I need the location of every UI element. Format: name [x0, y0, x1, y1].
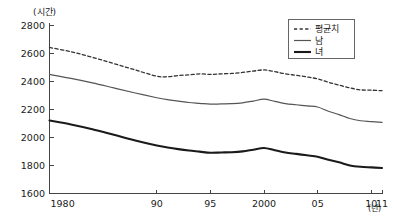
y-axis-unit-label: (시간)	[33, 7, 56, 17]
x-tick-mark-group	[157, 190, 382, 194]
y-tick-label: 2600	[21, 48, 45, 59]
legend-label: 녀	[315, 47, 323, 57]
y-tick-label: 2400	[21, 76, 45, 87]
y-tick-label: 1600	[21, 188, 45, 199]
series-group	[50, 47, 383, 167]
x-axis-unit-label: (년)	[368, 203, 381, 213]
x-tick-label: 95	[204, 198, 216, 209]
line-chart: (시간) 1600180020002200240026002800 198090…	[0, 0, 397, 223]
y-tick-label: 2800	[21, 20, 45, 31]
x-tick-label: 2000	[252, 198, 276, 209]
x-tick-label-group: 198090952000051011	[51, 198, 389, 209]
y-tick-label: 2000	[21, 132, 45, 143]
legend-label: 남	[315, 36, 323, 46]
x-tick-label: 05	[312, 198, 324, 209]
x-tick-label: 90	[151, 198, 163, 209]
y-tick-label: 1800	[21, 160, 45, 171]
chart-legend: 평균치남녀	[289, 20, 355, 59]
chart-svg: (시간) 1600180020002200240026002800 198090…	[0, 0, 397, 223]
series-line	[50, 120, 383, 167]
x-tick-label: 1980	[51, 198, 75, 209]
legend-label: 평균치	[315, 23, 339, 34]
y-tick-label-group: 1600180020002200240026002800	[21, 20, 45, 200]
y-tick-mark-group	[50, 26, 54, 166]
y-axis-unit-group: (시간)	[33, 7, 56, 17]
y-tick-label: 2200	[21, 104, 45, 115]
series-line	[50, 74, 383, 122]
x-axis-unit-group: (년)	[368, 203, 381, 213]
